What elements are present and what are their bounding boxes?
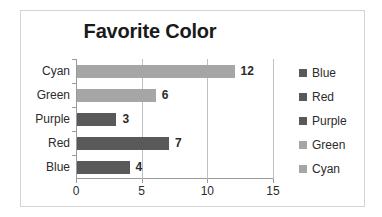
category-label-cyan: Cyan — [42, 64, 70, 78]
y-tick — [72, 83, 76, 84]
x-axis-label: 10 — [201, 184, 214, 198]
y-tick — [72, 131, 76, 132]
legend-swatch-icon — [299, 93, 307, 101]
legend-item-cyan[interactable]: Cyan — [299, 157, 361, 181]
bar-green[interactable] — [77, 89, 156, 102]
bar-value-label: 4 — [136, 160, 143, 174]
bar-row[interactable]: 7Red — [77, 137, 169, 150]
bar-purple[interactable] — [77, 113, 116, 126]
bar-row[interactable]: 4Blue — [77, 161, 130, 174]
plot-inner: 0510154Blue7Red3Purple6Green12Cyan — [76, 59, 273, 179]
bar-value-label: 12 — [241, 64, 254, 78]
chart-title: Favorite Color — [21, 21, 279, 41]
legend-item-red[interactable]: Red — [299, 85, 361, 109]
category-label-blue: Blue — [46, 160, 70, 174]
category-label-green: Green — [37, 88, 70, 102]
legend-item-purple[interactable]: Purple — [299, 109, 361, 133]
legend-label: Red — [312, 90, 334, 104]
y-tick — [72, 59, 76, 60]
bar-value-label: 3 — [122, 112, 129, 126]
legend-item-blue[interactable]: Blue — [299, 61, 361, 85]
x-axis-label: 0 — [73, 184, 80, 198]
legend-swatch-icon — [299, 117, 307, 125]
y-tick — [72, 107, 76, 108]
bar-row[interactable]: 6Green — [77, 89, 156, 102]
bar-red[interactable] — [77, 137, 169, 150]
x-tick-15 — [273, 179, 274, 183]
chart-frame: Favorite Color 0510154Blue7Red3Purple6Gr… — [20, 10, 365, 207]
bar-value-label: 6 — [162, 88, 169, 102]
chart-legend: BlueRedPurpleGreenCyan — [299, 61, 361, 181]
legend-swatch-icon — [299, 69, 307, 77]
x-tick-10 — [207, 179, 208, 183]
y-tick — [72, 155, 76, 156]
x-axis-line — [76, 178, 273, 179]
category-label-red: Red — [48, 136, 70, 150]
bar-row[interactable]: 3Purple — [77, 113, 116, 126]
x-axis-label: 15 — [266, 184, 279, 198]
legend-label: Blue — [312, 66, 336, 80]
bar-blue[interactable] — [77, 161, 130, 174]
x-tick-0 — [76, 179, 77, 183]
bar-cyan[interactable] — [77, 65, 235, 78]
plot-area: 0510154Blue7Red3Purple6Green12Cyan — [76, 59, 273, 179]
legend-item-green[interactable]: Green — [299, 133, 361, 157]
legend-label: Purple — [312, 114, 347, 128]
category-label-purple: Purple — [35, 112, 70, 126]
legend-swatch-icon — [299, 165, 307, 173]
bar-value-label: 7 — [175, 136, 182, 150]
x-tick-5 — [142, 179, 143, 183]
legend-label: Green — [312, 138, 345, 152]
gridline-15 — [273, 59, 274, 179]
x-axis-label: 5 — [138, 184, 145, 198]
legend-swatch-icon — [299, 141, 307, 149]
bar-row[interactable]: 12Cyan — [77, 65, 235, 78]
legend-label: Cyan — [312, 162, 340, 176]
